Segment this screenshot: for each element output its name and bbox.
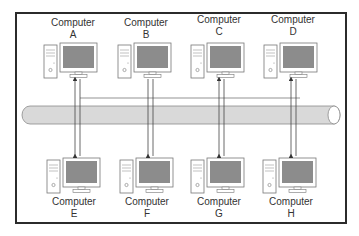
computer-c-label: Computer C: [184, 14, 254, 38]
computer-a-icon: [44, 43, 97, 78]
computer-e-title: Computer: [39, 196, 109, 208]
computer-e-icon: [47, 158, 100, 193]
computer-b-letter: B: [111, 29, 181, 41]
computer-d-label: Computer D: [258, 14, 328, 38]
computer-c-letter: C: [184, 26, 254, 38]
computer-e-letter: E: [39, 208, 109, 220]
computer-g-title: Computer: [184, 196, 254, 208]
computer-c-title: Computer: [184, 14, 254, 26]
computer-b-title: Computer: [111, 17, 181, 29]
bus-cable: [22, 106, 340, 124]
computer-f-icon: [120, 158, 173, 193]
computer-f-label: Computer F: [112, 196, 182, 220]
computer-g-label: Computer G: [184, 196, 254, 220]
computer-g-letter: G: [184, 208, 254, 220]
computer-f-title: Computer: [112, 196, 182, 208]
computer-e-label: Computer E: [39, 196, 109, 220]
computer-d-letter: D: [258, 26, 328, 38]
computer-d-title: Computer: [258, 14, 328, 26]
computer-d-icon: [264, 43, 317, 78]
computer-g-icon: [191, 158, 244, 193]
computer-f-letter: F: [112, 208, 182, 220]
computer-c-icon: [191, 43, 244, 78]
computer-a-label: Computer A: [38, 17, 108, 41]
computer-b-label: Computer B: [111, 17, 181, 41]
computer-b-icon: [118, 43, 171, 78]
computer-a-title: Computer: [38, 17, 108, 29]
computer-h-icon: [263, 158, 316, 193]
computer-a-letter: A: [38, 29, 108, 41]
computer-h-letter: H: [256, 208, 326, 220]
computer-h-title: Computer: [256, 196, 326, 208]
computer-h-label: Computer H: [256, 196, 326, 220]
